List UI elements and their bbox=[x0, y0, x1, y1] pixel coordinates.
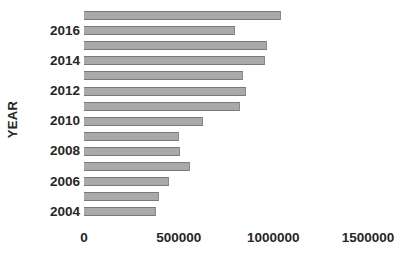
x-axis-tick-labels: 050000010000001500000 bbox=[0, 230, 416, 250]
bar-fill bbox=[84, 147, 180, 156]
x-tick-label-1500000: 1500000 bbox=[313, 230, 416, 245]
y-tick-label-2016: 2016 bbox=[30, 25, 80, 37]
x-tick-label-1000000: 1000000 bbox=[218, 230, 328, 245]
bar-fill bbox=[84, 11, 281, 20]
y-tick-label-2010: 2010 bbox=[30, 115, 80, 127]
y-axis-tick-labels: 2016201420122010200820062004 bbox=[30, 0, 80, 224]
bar-fill bbox=[84, 162, 190, 171]
y-tick-label-2012: 2012 bbox=[30, 85, 80, 97]
x-tick-label-0: 0 bbox=[29, 230, 139, 245]
y-axis-title: YEAR bbox=[5, 80, 20, 160]
x-axis-line bbox=[84, 224, 368, 225]
bar-chart: YEAR 2016201420122010200820062004 050000… bbox=[0, 0, 416, 268]
y-tick-label-2014: 2014 bbox=[30, 55, 80, 67]
y-tick-label-2004: 2004 bbox=[30, 206, 80, 218]
bar-fill bbox=[84, 192, 159, 201]
bar-fill bbox=[84, 132, 179, 141]
bar-2009 bbox=[84, 132, 179, 141]
bar-2007 bbox=[84, 162, 190, 171]
bar-2017 bbox=[84, 11, 281, 20]
bar-fill bbox=[84, 87, 246, 96]
bar-fill bbox=[84, 41, 267, 50]
plot-area bbox=[84, 10, 368, 224]
x-tick-label-500000: 500000 bbox=[124, 230, 234, 245]
bar-2014 bbox=[84, 56, 265, 65]
bar-fill bbox=[84, 56, 265, 65]
bar-2011 bbox=[84, 102, 240, 111]
bar-2015 bbox=[84, 41, 267, 50]
bar-2012 bbox=[84, 87, 246, 96]
bar-2004 bbox=[84, 207, 156, 216]
y-tick-label-2006: 2006 bbox=[30, 176, 80, 188]
bar-2008 bbox=[84, 147, 180, 156]
bar-fill bbox=[84, 26, 235, 35]
bar-2016 bbox=[84, 26, 235, 35]
bar-2005 bbox=[84, 192, 159, 201]
bar-2006 bbox=[84, 177, 169, 186]
bar-fill bbox=[84, 117, 203, 126]
bar-2013 bbox=[84, 71, 243, 80]
bar-fill bbox=[84, 71, 243, 80]
bar-2010 bbox=[84, 117, 203, 126]
bar-fill bbox=[84, 207, 156, 216]
y-tick-label-2008: 2008 bbox=[30, 145, 80, 157]
bar-fill bbox=[84, 102, 240, 111]
bar-fill bbox=[84, 177, 169, 186]
